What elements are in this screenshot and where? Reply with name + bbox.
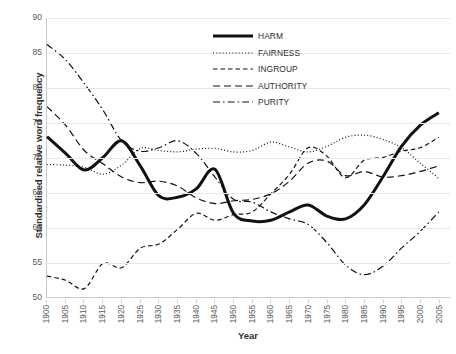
x-tick-mark <box>289 300 290 303</box>
series-line-harm <box>47 113 439 222</box>
x-tick-2005: 2005 <box>434 305 446 323</box>
x-tick-mark <box>196 300 197 303</box>
x-tick-mark <box>401 300 402 303</box>
x-tick-1920: 1920 <box>116 305 128 323</box>
x-tick-1935: 1935 <box>172 305 184 323</box>
legend-label: AUTHORITY <box>258 81 307 91</box>
x-tick-mark <box>420 300 421 303</box>
legend: HARMFAIRNESSINGROUPAUTHORITYPURITY <box>213 28 335 111</box>
gridline <box>47 123 450 124</box>
y-tick-85: 85 <box>16 48 42 57</box>
legend-swatch-icon <box>213 97 253 107</box>
legend-label: INGROUP <box>258 64 298 74</box>
x-tick-mark <box>177 300 178 303</box>
x-tick-1980: 1980 <box>340 305 352 323</box>
gridline <box>47 18 450 19</box>
x-tick-1950: 1950 <box>228 305 240 323</box>
y-tick-75: 75 <box>16 118 42 127</box>
gridline <box>47 263 450 264</box>
legend-label: PURITY <box>258 97 289 107</box>
x-tick-mark <box>65 300 66 303</box>
legend-swatch-icon <box>213 48 253 58</box>
x-tick-1915: 1915 <box>97 305 109 323</box>
x-tick-mark <box>270 300 271 303</box>
y-tick-60: 60 <box>16 223 42 232</box>
x-tick-mark <box>158 300 159 303</box>
series-line-ingroup <box>47 137 439 289</box>
x-tick-1995: 1995 <box>396 305 408 323</box>
x-axis-tick-labels: 1900190519101915192019251930193519401945… <box>46 300 450 344</box>
legend-item-harm[interactable]: HARM <box>213 28 335 45</box>
x-tick-1905: 1905 <box>60 305 72 323</box>
x-tick-mark <box>121 300 122 303</box>
x-tick-1925: 1925 <box>135 305 147 323</box>
y-tick-55: 55 <box>16 258 42 267</box>
x-tick-1990: 1990 <box>378 305 390 323</box>
legend-item-authority[interactable]: AUTHORITY <box>213 78 335 95</box>
y-tick-50: 50 <box>16 293 42 302</box>
x-tick-1975: 1975 <box>322 305 334 323</box>
legend-item-ingroup[interactable]: INGROUP <box>213 61 335 78</box>
legend-item-purity[interactable]: PURITY <box>213 94 335 111</box>
gridline <box>47 228 450 229</box>
x-tick-1900: 1900 <box>41 305 53 323</box>
y-tick-70: 70 <box>16 153 42 162</box>
x-tick-mark <box>327 300 328 303</box>
x-tick-mark <box>140 300 141 303</box>
x-tick-mark <box>345 300 346 303</box>
x-tick-mark <box>233 300 234 303</box>
x-tick-1960: 1960 <box>265 305 277 323</box>
x-tick-mark <box>383 300 384 303</box>
x-tick-1965: 1965 <box>284 305 296 323</box>
gridline <box>47 158 450 159</box>
legend-swatch-icon <box>213 81 253 91</box>
x-tick-1985: 1985 <box>359 305 371 323</box>
x-tick-2000: 2000 <box>415 305 427 323</box>
x-tick-1970: 1970 <box>303 305 315 323</box>
x-tick-1940: 1940 <box>191 305 203 323</box>
legend-label: HARM <box>258 31 283 41</box>
x-tick-mark <box>364 300 365 303</box>
x-tick-mark <box>83 300 84 303</box>
y-tick-80: 80 <box>16 83 42 92</box>
x-tick-1930: 1930 <box>153 305 165 323</box>
x-tick-mark <box>439 300 440 303</box>
y-tick-90: 90 <box>16 13 42 22</box>
y-tick-65: 65 <box>16 188 42 197</box>
legend-item-fairness[interactable]: FAIRNESS <box>213 45 335 62</box>
y-axis-tick-labels: 908580757065605550 <box>10 18 42 298</box>
x-tick-1955: 1955 <box>247 305 259 323</box>
x-tick-mark <box>46 300 47 303</box>
legend-label: FAIRNESS <box>258 48 300 58</box>
x-tick-mark <box>252 300 253 303</box>
x-tick-mark <box>102 300 103 303</box>
line-chart: Standardised relative word frequency Yea… <box>0 0 456 354</box>
legend-swatch-icon <box>213 64 253 74</box>
x-tick-1910: 1910 <box>78 305 90 323</box>
x-tick-1945: 1945 <box>209 305 221 323</box>
legend-swatch-icon <box>213 31 253 41</box>
gridline <box>47 193 450 194</box>
x-tick-mark <box>308 300 309 303</box>
x-tick-mark <box>214 300 215 303</box>
